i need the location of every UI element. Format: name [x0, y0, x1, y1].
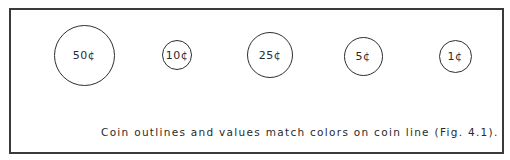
coin-1-cent: 1¢: [439, 40, 472, 73]
coin-25-cents: 25¢: [247, 32, 293, 78]
coin-50-cents: 50¢: [54, 25, 115, 86]
coin-label: 25¢: [259, 49, 282, 62]
coin-label: 1¢: [448, 50, 463, 63]
coin-label: 50¢: [73, 49, 96, 62]
coin-5-cents: 5¢: [344, 37, 383, 76]
figure-caption: Coin outlines and values match colors on…: [101, 126, 441, 138]
coin-label: 5¢: [356, 50, 371, 63]
coin-10-cents: 10¢: [162, 40, 192, 70]
coin-label: 10¢: [166, 49, 189, 62]
